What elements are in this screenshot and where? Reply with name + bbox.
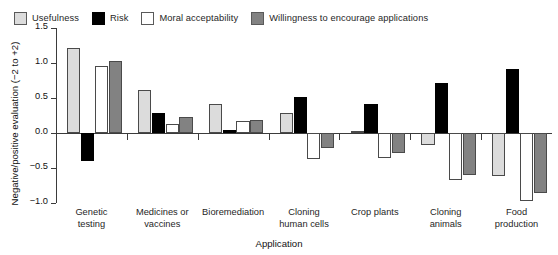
y-tick-mark [51, 168, 56, 169]
legend-item-moral-acceptability: Moral acceptability [141, 12, 238, 25]
legend-label-moral-acceptability: Moral acceptability [159, 13, 238, 23]
y-tick-mark [51, 28, 56, 29]
x-separator-tick [269, 133, 270, 140]
bar-willing [463, 133, 476, 175]
bar-useful [351, 131, 364, 133]
y-tick-mark [51, 133, 56, 134]
bar-moral [95, 66, 108, 133]
zero-baseline [56, 133, 552, 134]
legend-swatch-risk [92, 12, 105, 25]
bar-useful [209, 104, 222, 133]
plot-area: 1.51.00.50.0−0.5−1.0 [56, 28, 552, 203]
x-separator-tick [410, 133, 411, 140]
bar-risk [223, 130, 236, 133]
x-separator-tick [127, 133, 128, 140]
y-tick-label: 0.5 [35, 91, 48, 101]
bar-risk [435, 83, 448, 133]
legend-swatch-willingness [251, 12, 264, 25]
y-tick-label: 0.0 [35, 126, 48, 136]
y-tick-label: 1.5 [35, 21, 48, 31]
y-tick-label: −1.0 [30, 196, 48, 206]
bar-risk [81, 133, 94, 161]
bar-risk [364, 104, 377, 133]
x-axis-label: Foodproduction [473, 207, 558, 230]
x-axis-label-line: Food [473, 207, 558, 219]
legend-label-risk: Risk [110, 13, 128, 23]
bar-useful [138, 90, 151, 133]
bar-useful [492, 133, 505, 176]
legend-swatch-moral-acceptability [141, 12, 154, 25]
bar-risk [152, 113, 165, 133]
x-axis-label-line: production [473, 219, 558, 231]
bar-useful [421, 133, 434, 145]
bar-moral [307, 133, 320, 159]
bar-willing [109, 61, 122, 133]
legend-item-risk: Risk [92, 12, 128, 25]
y-tick-mark [51, 203, 56, 204]
chart-legend: Usefulness Risk Moral acceptability Will… [14, 8, 554, 28]
x-separator-tick [339, 133, 340, 140]
bar-moral [236, 121, 249, 133]
bar-willing [534, 133, 547, 193]
x-axis-label-line: vaccines [119, 219, 206, 231]
legend-label-willingness: Willingness to encourage applications [269, 13, 428, 23]
bar-useful [280, 113, 293, 133]
bar-willing [321, 133, 334, 148]
bar-moral [378, 133, 391, 158]
bar-willing [250, 120, 263, 133]
x-axis-label-line: human cells [261, 219, 348, 231]
bar-moral [520, 133, 533, 201]
bar-willing [392, 133, 405, 153]
x-axis-title: Application [0, 238, 558, 249]
y-axis-title: Negative/positive evaluation (−2 to +2) [9, 24, 20, 224]
bar-moral [449, 133, 462, 180]
y-axis-line [56, 28, 57, 203]
bar-moral [166, 124, 179, 133]
x-separator-tick [481, 133, 482, 140]
bar-willing [179, 117, 192, 133]
bar-risk [506, 69, 519, 133]
y-tick-label: −0.5 [30, 161, 48, 171]
y-tick-mark [51, 63, 56, 64]
legend-item-willingness: Willingness to encourage applications [251, 12, 428, 25]
y-tick-mark [51, 98, 56, 99]
y-tick-label: 1.0 [35, 56, 48, 66]
bar-useful [67, 48, 80, 133]
x-separator-tick [198, 133, 199, 140]
bar-risk [294, 97, 307, 133]
